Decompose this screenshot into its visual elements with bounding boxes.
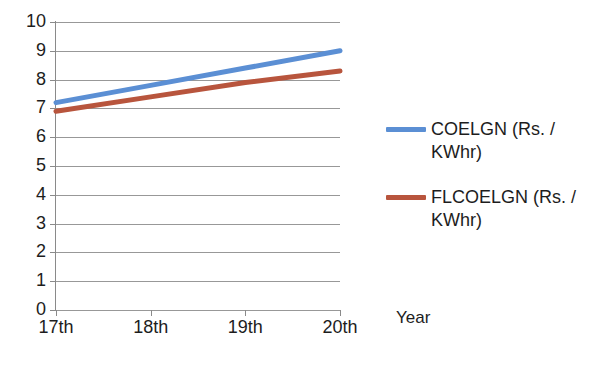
y-axis-tick — [50, 310, 56, 311]
y-axis-tick — [50, 281, 56, 282]
y-axis-tick-label: 8 — [14, 70, 46, 88]
chart-legend: COELGN (Rs. / KWhr) FLCOELGN (Rs. / KWhr… — [386, 118, 598, 254]
y-axis-tick-label: 9 — [14, 41, 46, 59]
legend-item-label: COELGN (Rs. / KWhr) — [431, 118, 593, 164]
y-axis-tick-label: 5 — [14, 156, 46, 174]
x-axis-title: Year — [396, 308, 430, 328]
legend-item-label: FLCOELGN (Rs. / KWhr) — [431, 186, 593, 232]
y-axis-tick — [50, 108, 56, 109]
legend-swatch-icon — [386, 195, 426, 200]
y-axis-tick — [50, 195, 56, 196]
y-axis-tick — [50, 80, 56, 81]
line-chart: 012345678910 17th18th19th20th Year COELG… — [0, 0, 601, 366]
y-axis-tick-label: 6 — [14, 127, 46, 145]
x-axis-tick — [151, 310, 152, 316]
legend-item[interactable]: COELGN (Rs. / KWhr) — [386, 118, 598, 164]
y-axis-tick-label: 2 — [14, 242, 46, 260]
legend-item[interactable]: FLCOELGN (Rs. / KWhr) — [386, 186, 598, 232]
y-axis-tick-label: 1 — [14, 271, 46, 289]
y-axis-tick — [50, 224, 56, 225]
x-axis-tick — [56, 310, 57, 316]
x-axis-tick — [245, 310, 246, 316]
y-axis-tick-label: 7 — [14, 98, 46, 116]
y-axis-tick-label: 3 — [14, 214, 46, 232]
y-axis-tick — [50, 252, 56, 253]
y-axis-tick-label: 4 — [14, 185, 46, 203]
legend-swatch-icon — [386, 127, 426, 132]
x-axis-tick — [340, 310, 341, 316]
y-axis-tick-label: 10 — [14, 12, 46, 30]
gridline — [56, 310, 340, 311]
y-axis-labels: 012345678910 — [8, 0, 46, 312]
x-axis-tick-label: 17th — [21, 317, 91, 337]
y-axis-tick-label: 0 — [14, 300, 46, 318]
y-axis-tick — [50, 51, 56, 52]
x-axis-tick-label: 19th — [210, 317, 280, 337]
y-axis-tick — [50, 166, 56, 167]
series-lines — [56, 22, 340, 310]
y-axis-tick — [50, 22, 56, 23]
y-axis-tick — [50, 137, 56, 138]
plot-area — [56, 22, 340, 310]
x-axis-tick-label: 18th — [116, 317, 186, 337]
x-axis-tick-label: 20th — [305, 317, 375, 337]
